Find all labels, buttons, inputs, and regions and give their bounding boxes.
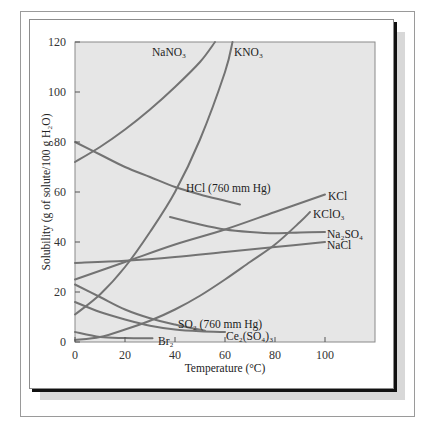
curve-label: NaNO₃ xyxy=(152,46,186,58)
curve-label: KClO₃ xyxy=(313,208,345,220)
curve-label: HCl (760 mm Hg) xyxy=(186,182,271,195)
y-tick-label: 0 xyxy=(60,335,66,349)
y-tick-label: 80 xyxy=(54,135,66,149)
y-tick-label: 20 xyxy=(54,285,66,299)
y-axis-title: Solubility (g of solute/100 g H₂O) xyxy=(40,113,53,270)
x-tick-label: 80 xyxy=(269,348,281,362)
y-tick-label: 60 xyxy=(54,185,66,199)
curve-label: Ce₂(SO₄)₃ xyxy=(226,330,273,343)
solubility-chart: 020406080100 020406080100120 NaNO₃KNO₃HC… xyxy=(0,0,428,425)
x-tick-label: 0 xyxy=(72,348,78,362)
x-axis-title: Temperature (°C) xyxy=(185,362,266,375)
curve-label: NaCl xyxy=(327,239,351,251)
x-tick-label: 20 xyxy=(119,348,131,362)
x-tick-label: 100 xyxy=(316,348,334,362)
y-tick-label: 40 xyxy=(54,235,66,249)
y-tick-label: 100 xyxy=(48,85,66,99)
x-tick-label: 60 xyxy=(219,348,231,362)
y-tick-label: 120 xyxy=(48,35,66,49)
curve-label: KCl xyxy=(328,190,347,202)
curve-label: Br₂ xyxy=(158,335,174,347)
curve-label: KNO₃ xyxy=(234,46,263,58)
x-tick-label: 40 xyxy=(169,348,181,362)
